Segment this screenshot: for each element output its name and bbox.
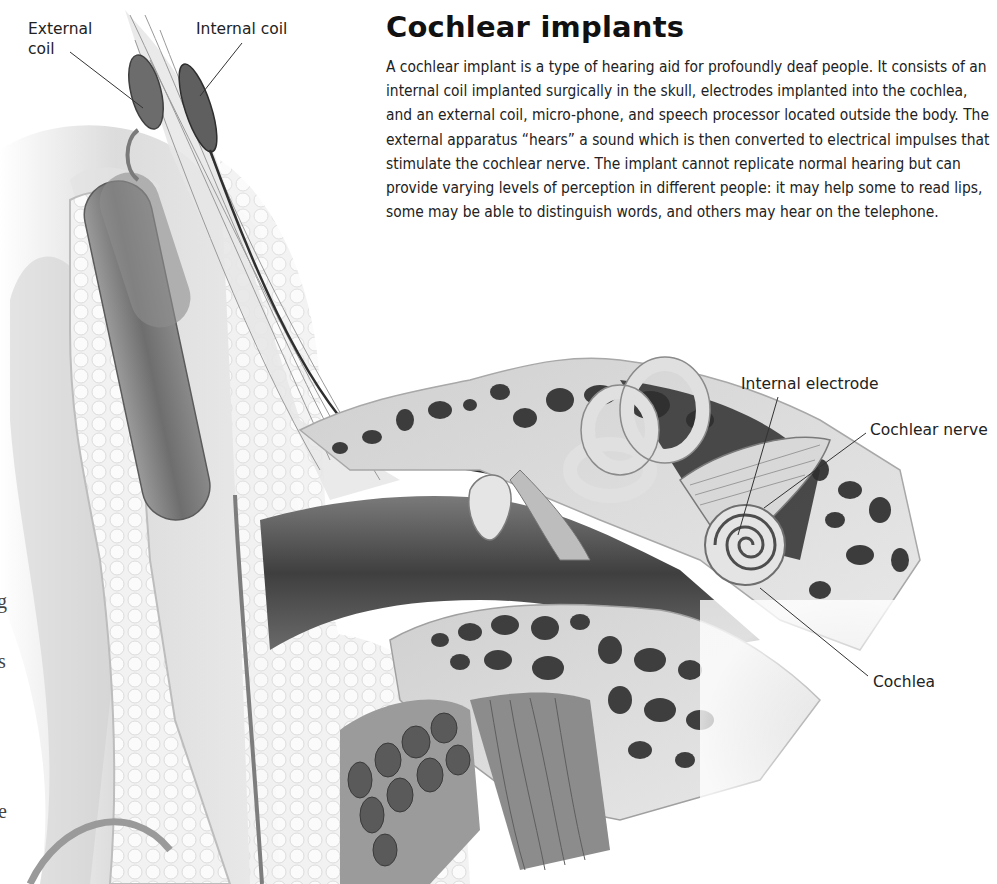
- label-internal-electrode: Internal electrode: [741, 374, 879, 394]
- edge-fragment-s: s: [0, 650, 6, 673]
- edge-fragment-e: e: [0, 800, 7, 823]
- edge-fragment-g: g: [0, 590, 7, 613]
- label-internal-coil: Internal coil: [196, 19, 287, 39]
- muscle-fibres: [470, 693, 610, 871]
- body-paragraph: A cochlear implant is a type of hearing …: [386, 55, 991, 224]
- label-external-coil: External coil: [28, 19, 108, 59]
- cochlea-shape: [705, 505, 785, 585]
- page-title: Cochlear implants: [386, 10, 684, 44]
- leader-internal-coil: [200, 43, 242, 96]
- label-cochlea: Cochlea: [873, 672, 935, 692]
- label-cochlear-nerve: Cochlear nerve: [870, 420, 988, 440]
